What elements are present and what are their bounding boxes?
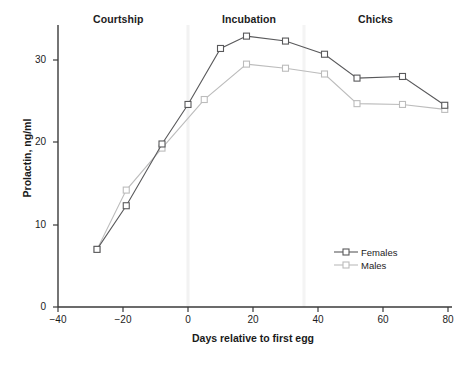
legend-item-males: Males [332,259,397,272]
line-females [97,36,445,249]
marker-males-7 [354,101,360,107]
marker-males-3 [201,97,207,103]
marker-females-9 [400,73,406,79]
series-females [94,33,448,252]
marker-females-2 [159,141,165,147]
marker-females-7 [322,51,328,57]
marker-males-8 [400,101,406,107]
legend-label-females: Females [361,246,397,259]
x-tick-label-40: 40 [298,314,338,325]
series-males [94,61,448,252]
marker-males-5 [283,65,289,71]
x-tick-label-minus20: −20 [103,314,143,325]
marker-females-10 [442,102,448,108]
legend-label-males: Males [361,259,386,272]
chart-legend: Females Males [332,246,397,272]
marker-males-6 [322,71,328,77]
line-males [97,64,445,249]
plot-area [0,0,475,368]
y-tick-label-30: 30 [16,54,46,65]
marker-females-6 [283,38,289,44]
marker-females-8 [354,75,360,81]
x-tick-label-minus40: −40 [38,314,78,325]
marker-females-1 [123,203,129,209]
prolactin-line-chart: Courtship Incubation Chicks 30 20 10 0 −… [0,0,475,368]
y-axis-title: Prolactin, ng/ml [21,83,33,233]
marker-females-0 [94,246,100,252]
x-tick-label-80: 80 [428,314,468,325]
x-tick-label-60: 60 [363,314,403,325]
marker-females-5 [244,33,250,39]
x-tick-label-20: 20 [233,314,273,325]
x-axis-title: Days relative to first egg [58,332,448,344]
legend-item-females: Females [332,246,397,259]
marker-males-4 [244,61,250,67]
marker-females-4 [218,45,224,51]
marker-females-3 [185,101,191,107]
marker-males-1 [123,187,129,193]
x-tick-label-0: 0 [168,314,208,325]
y-tick-label-0: 0 [16,301,46,312]
